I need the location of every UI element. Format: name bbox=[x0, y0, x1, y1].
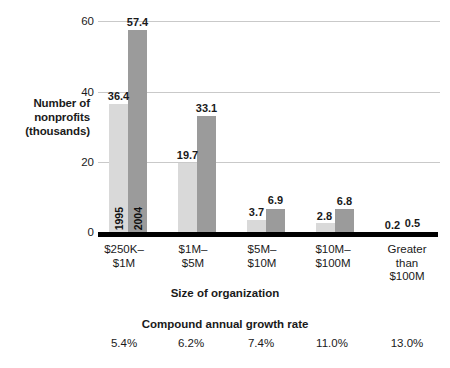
cagr-value-1: 5.4% bbox=[90, 337, 158, 349]
y-axis-title-line-3: (thousands) bbox=[4, 124, 90, 138]
x-category-label-2: $1M– $5M bbox=[159, 243, 227, 270]
bar-group-4: 2.8 6.8 bbox=[316, 21, 354, 233]
x-category-label-5-line-3: $100M bbox=[372, 270, 442, 284]
value-label-2004-group-5: 0.5 bbox=[398, 217, 427, 229]
bar-group-1: 1995 2004 36.4 57.4 bbox=[109, 21, 147, 233]
y-axis-title-line-2: nonprofits bbox=[4, 110, 90, 124]
x-category-label-4-line-2: $100M bbox=[297, 257, 369, 271]
bar-2004-group-2[interactable] bbox=[197, 116, 216, 233]
value-label-2004-group-2: 33.1 bbox=[192, 102, 221, 114]
bar-1995-group-1[interactable]: 1995 bbox=[109, 104, 128, 233]
plot-area: 1995 2004 36.4 57.4 19.7 33.1 3.7 6.9 2 bbox=[98, 21, 440, 233]
x-category-label-2-line-1: $1M– bbox=[159, 243, 227, 257]
y-axis-title: Number of nonprofits (thousands) bbox=[4, 96, 90, 138]
y-tick-0: 0 bbox=[68, 227, 94, 238]
cagr-value-5: 13.0% bbox=[372, 337, 442, 349]
bar-2004-group-1[interactable]: 2004 bbox=[128, 30, 147, 233]
bar-group-3: 3.7 6.9 bbox=[247, 21, 285, 233]
value-label-2004-group-4: 6.8 bbox=[330, 195, 359, 207]
value-label-2004-group-3: 6.9 bbox=[261, 194, 290, 206]
y-axis-title-line-1: Number of bbox=[4, 96, 90, 110]
value-label-1995-group-3: 3.7 bbox=[242, 206, 271, 218]
x-axis-title: Size of organization bbox=[0, 287, 450, 299]
x-category-label-5-line-2: than bbox=[372, 257, 442, 271]
value-label-2004-group-1: 57.4 bbox=[123, 16, 152, 28]
cagr-value-3: 7.4% bbox=[227, 337, 295, 349]
cagr-value-2: 6.2% bbox=[157, 337, 225, 349]
bar-group-2: 19.7 33.1 bbox=[178, 21, 216, 233]
x-category-label-2-line-2: $5M bbox=[159, 257, 227, 271]
value-label-1995-group-2: 19.7 bbox=[173, 149, 202, 161]
x-category-label-1-line-2: $1M bbox=[90, 257, 158, 271]
bar-group-5: 0.2 0.5 bbox=[385, 21, 423, 233]
bar-1995-group-2[interactable] bbox=[178, 163, 197, 233]
y-tick-60: 60 bbox=[68, 16, 94, 27]
y-tick-40: 40 bbox=[68, 87, 94, 98]
x-category-label-4: $10M– $100M bbox=[297, 243, 369, 270]
x-category-label-1-line-1: $250K– bbox=[90, 243, 158, 257]
value-label-1995-group-1: 36.4 bbox=[104, 90, 133, 102]
y-tick-20: 20 bbox=[68, 157, 94, 168]
cagr-value-4: 11.0% bbox=[297, 337, 367, 349]
bar-chart: Number of nonprofits (thousands) 60 40 2… bbox=[0, 0, 450, 368]
series-label-2004: 2004 bbox=[132, 207, 144, 230]
cagr-title: Compound annual growth rate bbox=[0, 318, 450, 330]
value-label-1995-group-4: 2.8 bbox=[310, 210, 339, 222]
x-category-label-3-line-2: $10M bbox=[228, 257, 296, 271]
x-category-label-3-line-1: $5M– bbox=[228, 243, 296, 257]
x-category-label-5: Greater than $100M bbox=[372, 243, 442, 284]
x-category-label-1: $250K– $1M bbox=[90, 243, 158, 270]
x-category-label-4-line-1: $10M– bbox=[297, 243, 369, 257]
x-axis-baseline bbox=[98, 232, 438, 237]
series-label-1995: 1995 bbox=[113, 207, 125, 230]
x-category-label-3: $5M– $10M bbox=[228, 243, 296, 270]
x-category-label-5-line-1: Greater bbox=[372, 243, 442, 257]
